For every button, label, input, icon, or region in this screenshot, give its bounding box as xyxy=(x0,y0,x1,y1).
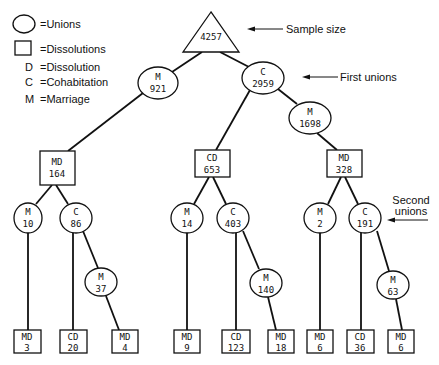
node-c403: C 403 xyxy=(217,203,249,233)
arrow-left-icon xyxy=(247,27,255,32)
node-md6-a: MD 6 xyxy=(307,330,333,353)
node-m37: M 37 xyxy=(85,268,117,296)
node-md4: MD 4 xyxy=(112,330,138,353)
legend-unions: =Unions xyxy=(40,18,81,30)
svg-text:CD: CD xyxy=(231,332,242,342)
svg-text:403: 403 xyxy=(225,219,241,229)
svg-text:2: 2 xyxy=(317,219,322,229)
node-m140: M 140 xyxy=(250,269,282,297)
svg-text:191: 191 xyxy=(357,219,373,229)
svg-text:CD: CD xyxy=(207,153,218,163)
node-cd123: CD 123 xyxy=(222,330,250,353)
svg-text:653: 653 xyxy=(204,165,220,175)
legend-c-letter: C xyxy=(25,76,33,88)
legend-d-text: =Dissolution xyxy=(40,61,100,73)
root-node: 4257 xyxy=(183,12,239,52)
svg-text:C: C xyxy=(260,67,265,77)
svg-text:M: M xyxy=(317,207,323,217)
svg-text:MD: MD xyxy=(315,332,326,342)
node-md9: MD 9 xyxy=(174,330,200,353)
svg-text:140: 140 xyxy=(258,285,274,295)
arrow-left-icon xyxy=(387,218,395,223)
svg-text:MD: MD xyxy=(22,332,33,342)
svg-text:C: C xyxy=(362,207,367,217)
svg-text:MD: MD xyxy=(52,157,63,167)
legend: =Unions =Dissolutions D =Dissolution C =… xyxy=(13,15,108,105)
svg-text:M: M xyxy=(184,207,190,217)
node-c191: C 191 xyxy=(349,203,381,233)
node-m14: M 14 xyxy=(171,203,203,233)
svg-text:9: 9 xyxy=(184,343,189,353)
svg-text:164: 164 xyxy=(49,169,65,179)
svg-text:unions: unions xyxy=(395,205,428,217)
svg-text:36: 36 xyxy=(355,343,366,353)
svg-text:1698: 1698 xyxy=(299,119,321,129)
node-md6-b: MD 6 xyxy=(388,330,414,353)
node-md328: MD 328 xyxy=(327,150,362,177)
node-m10: M 10 xyxy=(14,203,42,233)
svg-text:MD: MD xyxy=(339,153,350,163)
svg-text:921: 921 xyxy=(150,84,166,94)
svg-text:6: 6 xyxy=(317,343,322,353)
svg-text:328: 328 xyxy=(336,165,352,175)
svg-text:M: M xyxy=(390,275,396,285)
legend-dissolutions: =Dissolutions xyxy=(40,43,106,55)
node-m1698: M 1698 xyxy=(289,102,331,134)
svg-text:MD: MD xyxy=(276,332,287,342)
svg-text:3: 3 xyxy=(24,343,29,353)
union-tree-diagram: =Unions =Dissolutions D =Dissolution C =… xyxy=(0,0,439,365)
node-cd36: CD 36 xyxy=(347,330,374,353)
node-md164: MD 164 xyxy=(40,151,75,185)
svg-text:63: 63 xyxy=(388,287,399,297)
svg-text:6: 6 xyxy=(398,343,403,353)
arrow-left-icon xyxy=(302,75,310,80)
node-cd20: CD 20 xyxy=(60,330,87,353)
svg-text:Sample size: Sample size xyxy=(286,23,346,35)
svg-text:M: M xyxy=(25,207,31,217)
svg-text:86: 86 xyxy=(71,219,82,229)
node-m921: M 921 xyxy=(138,67,178,99)
legend-c-text: =Cohabitation xyxy=(40,76,108,88)
svg-text:M: M xyxy=(307,107,313,117)
svg-text:First unions: First unions xyxy=(340,71,397,83)
legend-ellipse-icon xyxy=(13,15,35,33)
node-md18: MD 18 xyxy=(268,330,294,353)
node-c86: C 86 xyxy=(60,203,92,233)
node-c2959: C 2959 xyxy=(242,62,284,94)
svg-text:20: 20 xyxy=(68,343,79,353)
svg-text:10: 10 xyxy=(23,219,34,229)
root-count: 4257 xyxy=(200,32,222,42)
svg-text:CD: CD xyxy=(355,332,366,342)
legend-m-text: =Marriage xyxy=(40,93,90,105)
node-m2: M 2 xyxy=(304,203,336,233)
svg-text:C: C xyxy=(73,207,78,217)
svg-text:14: 14 xyxy=(182,219,193,229)
svg-text:CD: CD xyxy=(68,332,79,342)
node-m63: M 63 xyxy=(377,271,409,299)
svg-text:MD: MD xyxy=(120,332,131,342)
svg-text:123: 123 xyxy=(228,343,244,353)
legend-m-letter: M xyxy=(25,93,34,105)
legend-d-letter: D xyxy=(25,61,33,73)
annotation-second-unions: Second unions xyxy=(387,194,430,223)
svg-text:M: M xyxy=(263,273,269,283)
svg-text:4: 4 xyxy=(122,343,127,353)
svg-text:M: M xyxy=(155,72,161,82)
svg-text:18: 18 xyxy=(276,343,287,353)
svg-text:37: 37 xyxy=(96,284,107,294)
annotation-sample-size: Sample size xyxy=(247,23,346,35)
svg-text:M: M xyxy=(98,272,104,282)
node-cd653: CD 653 xyxy=(195,150,230,177)
svg-text:2959: 2959 xyxy=(252,79,274,89)
node-md3: MD 3 xyxy=(14,330,41,353)
legend-square-icon xyxy=(15,41,31,55)
svg-text:C: C xyxy=(230,207,235,217)
svg-text:MD: MD xyxy=(182,332,193,342)
annotation-first-unions: First unions xyxy=(302,71,397,83)
svg-text:MD: MD xyxy=(396,332,407,342)
